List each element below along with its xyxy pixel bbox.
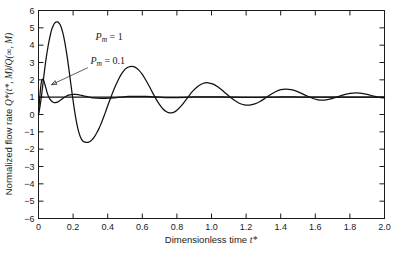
x-axis-tick-labels: 00.20.40.60.81.01.21.41.61.82.0 xyxy=(36,222,391,232)
y-tick-label: −6 xyxy=(24,214,34,224)
y-tick-label: 3 xyxy=(29,58,34,68)
annotation-pm-0-1: Pm = 0.1 xyxy=(89,55,125,68)
y-tick-label: −1 xyxy=(24,127,34,137)
x-axis-ticks-bottom xyxy=(39,214,385,219)
x-tick-label: 0.8 xyxy=(171,222,184,232)
figure-container: 00.20.40.60.81.01.21.41.61.82.0 −6−5−4−3… xyxy=(0,0,401,255)
y-tick-label: 0 xyxy=(29,110,34,120)
y-tick-label: 5 xyxy=(29,23,34,33)
y-tick-label: 2 xyxy=(29,75,34,85)
x-tick-label: 0.4 xyxy=(101,222,114,232)
y-tick-label: −3 xyxy=(24,162,34,172)
y-tick-label: 6 xyxy=(29,6,34,16)
x-axis-ticks-top xyxy=(39,11,385,16)
y-tick-label: 1 xyxy=(29,92,34,102)
annotation-pm-1: Pm = 1 xyxy=(95,31,123,44)
plot-frame xyxy=(39,11,385,219)
chart-canvas: 00.20.40.60.81.01.21.41.61.82.0 −6−5−4−3… xyxy=(0,0,401,255)
x-axis-title: Dimensionless time t* xyxy=(165,234,258,245)
x-tick-label: 1.4 xyxy=(274,222,287,232)
y-tick-label: −4 xyxy=(24,179,34,189)
x-tick-label: 0.2 xyxy=(67,222,80,232)
y-axis-ticks-right xyxy=(380,11,385,219)
y-axis-title: Normalized flow rate Q*(t*, M)/Q(∞, M) xyxy=(3,33,15,196)
x-tick-label: 1.6 xyxy=(309,222,322,232)
y-tick-label: 4 xyxy=(29,40,34,50)
y-tick-label: −5 xyxy=(24,196,34,206)
x-tick-label: 1.0 xyxy=(205,222,218,232)
y-tick-label: −2 xyxy=(24,144,34,154)
x-tick-label: 0 xyxy=(36,222,41,232)
x-tick-label: 2.0 xyxy=(378,222,391,232)
x-tick-label: 1.8 xyxy=(344,222,357,232)
curve-pm-1 xyxy=(39,22,385,143)
curve-pm-0-1 xyxy=(39,79,385,114)
y-axis-ticks-left xyxy=(39,11,44,219)
x-tick-label: 1.2 xyxy=(240,222,253,232)
x-tick-label: 0.6 xyxy=(136,222,149,232)
y-axis-tick-labels: −6−5−4−3−2−10123456 xyxy=(24,6,34,224)
